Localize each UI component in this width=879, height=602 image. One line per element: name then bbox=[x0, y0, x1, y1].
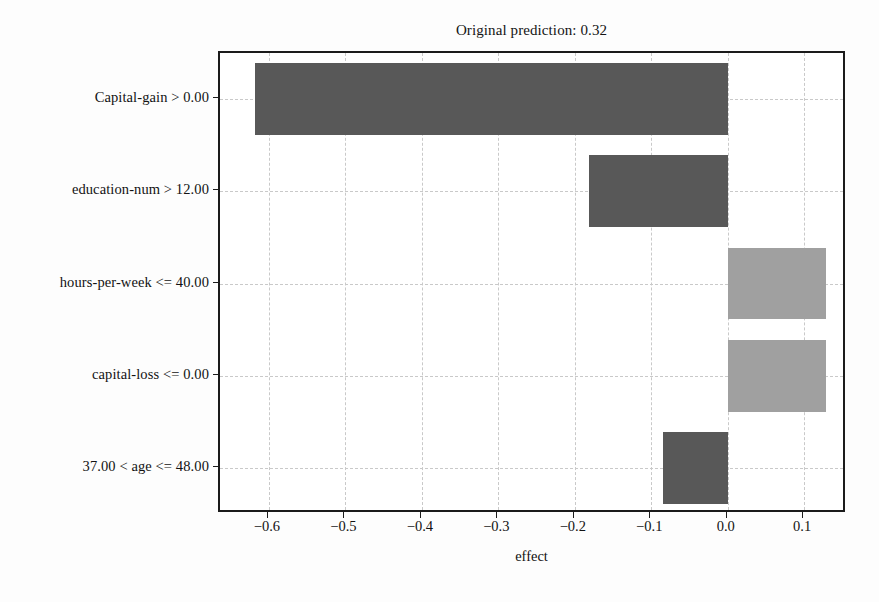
x-axis-tick-labels: −0.6−0.5−0.4−0.3−0.2−0.10.00.1 bbox=[218, 518, 845, 544]
x-tick-label: 0.0 bbox=[717, 518, 735, 535]
x-tick-label: −0.4 bbox=[407, 518, 433, 535]
page-title: Original prediction: 0.32 bbox=[218, 22, 845, 39]
y-gridline bbox=[220, 191, 843, 193]
x-tick-label: −0.1 bbox=[636, 518, 662, 535]
plot-inner bbox=[220, 53, 843, 510]
y-tick-label: Capital-gain > 0.00 bbox=[95, 89, 209, 106]
y-tick-label: hours-per-week <= 40.00 bbox=[60, 273, 209, 290]
bar bbox=[589, 155, 728, 227]
x-tick-label: −0.6 bbox=[254, 518, 280, 535]
y-tick-label: 37.00 < age <= 48.00 bbox=[83, 457, 209, 474]
chart-page: Original prediction: 0.32 Capital-gain >… bbox=[0, 0, 879, 602]
x-axis-title: effect bbox=[218, 548, 845, 565]
plot-area bbox=[218, 51, 845, 512]
y-tick-label: capital-loss <= 0.00 bbox=[92, 365, 209, 382]
x-tick-label: −0.2 bbox=[560, 518, 586, 535]
bar bbox=[255, 63, 728, 135]
x-tick-label: −0.5 bbox=[330, 518, 356, 535]
x-tick-label: −0.3 bbox=[483, 518, 509, 535]
bar bbox=[728, 340, 827, 412]
y-gridline bbox=[220, 468, 843, 470]
bar bbox=[728, 248, 827, 320]
y-tick-label: education-num > 12.00 bbox=[72, 181, 209, 198]
y-axis-tick-labels: Capital-gain > 0.00education-num > 12.00… bbox=[0, 51, 209, 512]
bar bbox=[663, 432, 727, 504]
x-tick-label: 0.1 bbox=[793, 518, 811, 535]
